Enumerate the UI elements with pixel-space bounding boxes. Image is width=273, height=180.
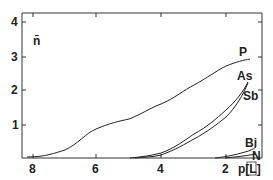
x-ticks-bottom [33,154,226,158]
y-ticks-left [22,22,26,125]
series-label-N: N [252,149,261,163]
y-ticks-right [258,22,262,125]
y-tick-label-3: 3 [11,50,18,64]
series-As-curve [130,82,248,158]
x-tick-label-4: 4 [157,162,164,176]
x-tick-label-2: 2 [222,162,229,176]
series-label-As: As [237,69,253,83]
x-ticks-top [33,13,226,17]
y-axis-label: n̄ [33,34,40,48]
chart: 4 3 2 1 8 6 4 2 n̄ p[L] P As Sb Bi N [0,0,273,180]
series-P-curve [27,59,250,157]
y-tick-label-4: 4 [11,15,18,29]
series-Sb-curve [135,83,248,158]
x-tick-label-6: 6 [92,162,99,176]
series-label-P: P [239,45,247,59]
series-label-Bi: Bi [245,136,257,150]
x-tick-label-8: 8 [29,162,36,176]
y-tick-label-1: 1 [12,118,19,132]
x-axis-label: p[L] [238,162,261,176]
series-label-Sb: Sb [243,89,258,103]
y-tick-label-2: 2 [11,83,18,97]
